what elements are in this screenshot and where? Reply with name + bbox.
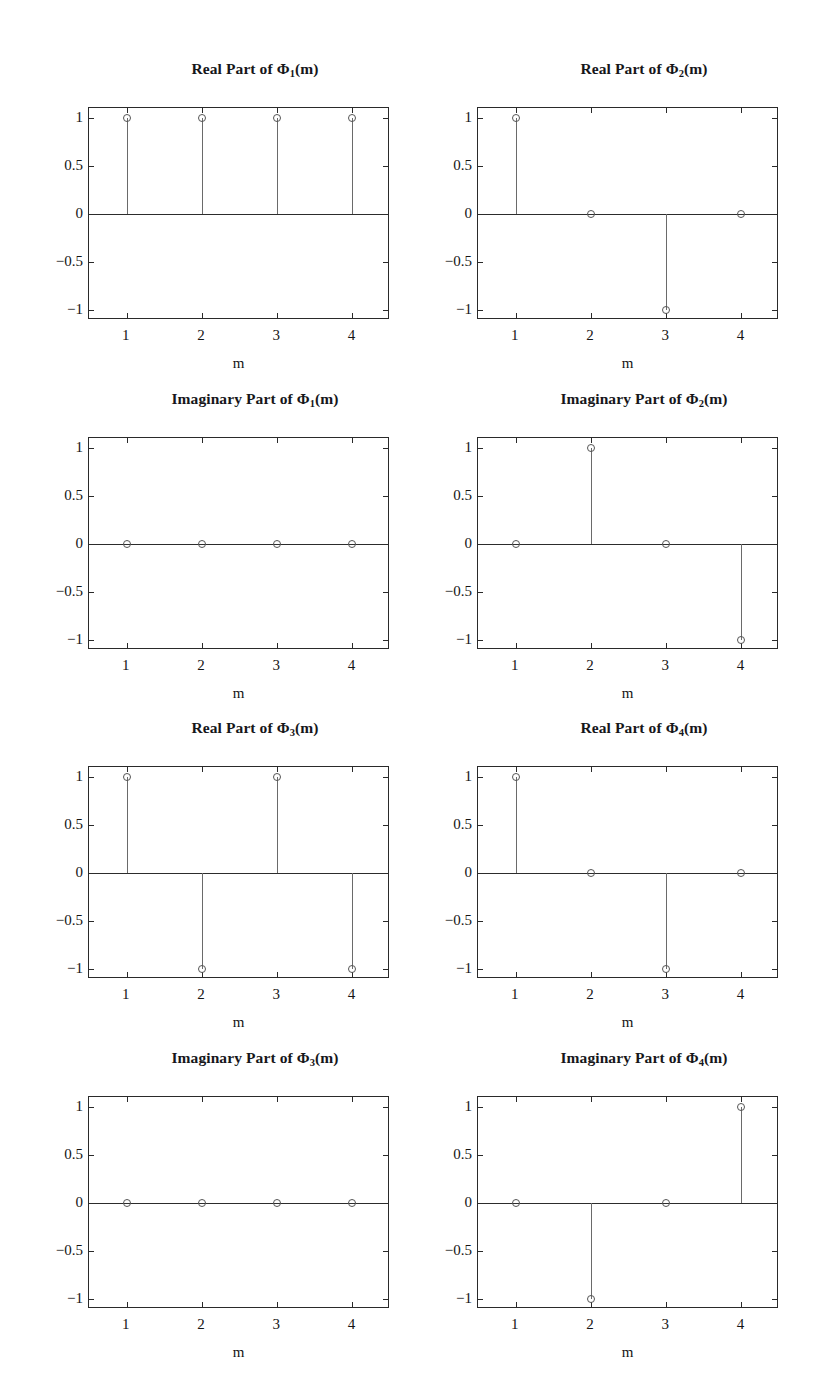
data-point-marker bbox=[273, 1199, 281, 1207]
x-axis-label: m bbox=[88, 355, 389, 372]
x-tick-label: 1 bbox=[495, 658, 535, 673]
x-tick-label: 4 bbox=[331, 328, 371, 343]
x-axis-label: m bbox=[477, 685, 778, 702]
panel-real-phi-1: Real Part of Φ1(m)1234−1−0.500.51m bbox=[60, 60, 450, 390]
figure-stem-plot-grid: Real Part of Φ1(m)1234−1−0.500.51mReal P… bbox=[0, 0, 834, 1385]
x-tick-mark bbox=[352, 313, 353, 318]
x-tick-mark-mirror bbox=[666, 108, 667, 113]
x-tick-label: 2 bbox=[570, 328, 610, 343]
y-tick-label: −1 bbox=[23, 961, 83, 976]
x-tick-label: 1 bbox=[106, 1317, 146, 1332]
y-tick-label: 0.5 bbox=[412, 817, 472, 832]
x-tick-mark bbox=[202, 643, 203, 648]
x-tick-mark-mirror bbox=[516, 767, 517, 772]
y-tick-label: −1 bbox=[23, 302, 83, 317]
stem-line bbox=[516, 118, 517, 214]
x-tick-mark bbox=[666, 643, 667, 648]
title-subscript: 2 bbox=[679, 68, 684, 79]
y-tick-mark-mirror bbox=[772, 777, 777, 778]
y-tick-mark bbox=[89, 640, 94, 641]
y-tick-label: −1 bbox=[23, 632, 83, 647]
zero-baseline bbox=[478, 1203, 777, 1204]
title-subscript: 4 bbox=[699, 1057, 704, 1068]
panel-title-real-phi-1: Real Part of Φ1(m) bbox=[60, 60, 450, 78]
y-tick-label: 1 bbox=[23, 440, 83, 455]
x-tick-label: 1 bbox=[106, 658, 146, 673]
x-tick-label: 3 bbox=[256, 328, 296, 343]
y-tick-mark bbox=[478, 592, 483, 593]
panel-title-imag-phi-2: Imaginary Part of Φ2(m) bbox=[449, 390, 834, 408]
y-tick-label: 1 bbox=[23, 769, 83, 784]
x-tick-mark-mirror bbox=[277, 767, 278, 772]
x-tick-label: 3 bbox=[645, 1317, 685, 1332]
y-tick-mark bbox=[478, 921, 483, 922]
x-tick-mark-mirror bbox=[127, 767, 128, 772]
title-prefix: Real Part of Φ bbox=[191, 60, 289, 77]
y-tick-label: −0.5 bbox=[23, 1243, 83, 1258]
x-tick-mark bbox=[666, 1302, 667, 1307]
plot-area-imag-phi-3: −1−0.500.51 bbox=[88, 1096, 389, 1308]
x-tick-mark-mirror bbox=[516, 438, 517, 443]
y-tick-mark bbox=[89, 262, 94, 263]
plot-area-real-phi-1: −1−0.500.51 bbox=[88, 107, 389, 319]
x-tick-mark-mirror bbox=[352, 108, 353, 113]
y-tick-mark bbox=[478, 166, 483, 167]
y-tick-mark bbox=[478, 1251, 483, 1252]
y-tick-label: 0.5 bbox=[412, 1147, 472, 1162]
x-tick-mark-mirror bbox=[516, 108, 517, 113]
y-tick-label: −1 bbox=[412, 302, 472, 317]
data-point-marker bbox=[587, 869, 595, 877]
x-tick-label: 2 bbox=[181, 658, 221, 673]
x-tick-mark bbox=[127, 643, 128, 648]
x-tick-label: 4 bbox=[331, 1317, 371, 1332]
y-tick-mark-mirror bbox=[772, 310, 777, 311]
title-suffix: (m) bbox=[684, 60, 708, 77]
y-tick-mark-mirror bbox=[772, 166, 777, 167]
zero-baseline bbox=[478, 873, 777, 874]
x-tick-mark bbox=[516, 1302, 517, 1307]
data-point-marker bbox=[273, 540, 281, 548]
stem-line bbox=[741, 544, 742, 640]
panel-imag-phi-2: Imaginary Part of Φ2(m)1234−1−0.500.51m bbox=[449, 390, 834, 720]
plot-area-imag-phi-4: −1−0.500.51 bbox=[477, 1096, 778, 1308]
title-subscript: 1 bbox=[290, 68, 295, 79]
panel-title-real-phi-2: Real Part of Φ2(m) bbox=[449, 60, 834, 78]
data-point-marker bbox=[273, 114, 281, 122]
x-axis-label: m bbox=[477, 355, 778, 372]
y-tick-mark-mirror bbox=[772, 262, 777, 263]
data-point-marker bbox=[512, 540, 520, 548]
x-tick-label: 4 bbox=[331, 658, 371, 673]
x-tick-label: 1 bbox=[495, 1317, 535, 1332]
title-suffix: (m) bbox=[704, 1049, 728, 1066]
x-tick-label: 2 bbox=[570, 658, 610, 673]
zero-baseline bbox=[478, 214, 777, 215]
x-tick-mark-mirror bbox=[741, 438, 742, 443]
y-tick-label: 0.5 bbox=[23, 488, 83, 503]
data-point-marker bbox=[198, 1199, 206, 1207]
y-tick-mark-mirror bbox=[383, 592, 388, 593]
y-tick-mark bbox=[478, 640, 483, 641]
y-tick-label: 1 bbox=[412, 769, 472, 784]
title-suffix: (m) bbox=[315, 390, 339, 407]
x-tick-mark bbox=[591, 313, 592, 318]
x-tick-label: 3 bbox=[645, 658, 685, 673]
x-axis-label: m bbox=[477, 1344, 778, 1361]
x-tick-label: 1 bbox=[106, 987, 146, 1002]
x-tick-mark-mirror bbox=[277, 1097, 278, 1102]
title-subscript: 3 bbox=[290, 727, 295, 738]
data-point-marker bbox=[737, 636, 745, 644]
y-tick-mark bbox=[478, 1155, 483, 1156]
x-tick-mark-mirror bbox=[352, 1097, 353, 1102]
x-tick-label: 3 bbox=[256, 658, 296, 673]
x-tick-label: 2 bbox=[181, 987, 221, 1002]
x-axis-label: m bbox=[88, 1344, 389, 1361]
x-tick-mark-mirror bbox=[591, 108, 592, 113]
y-tick-mark bbox=[478, 1107, 483, 1108]
x-tick-mark-mirror bbox=[277, 108, 278, 113]
x-tick-mark-mirror bbox=[741, 767, 742, 772]
y-tick-label: 0 bbox=[412, 206, 472, 221]
y-tick-mark bbox=[89, 921, 94, 922]
x-axis-label: m bbox=[88, 1014, 389, 1031]
x-tick-mark bbox=[741, 313, 742, 318]
data-point-marker bbox=[123, 1199, 131, 1207]
